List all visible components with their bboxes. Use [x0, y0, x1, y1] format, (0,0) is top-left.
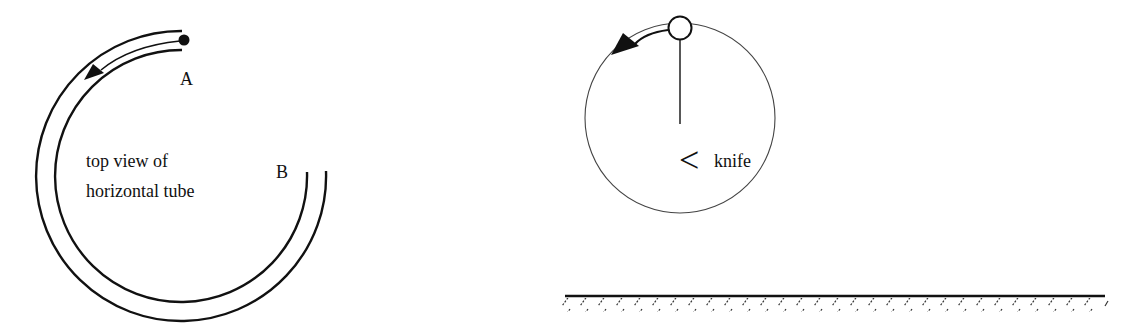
right-figure: < knife	[558, 17, 1108, 313]
point-b-label: B	[276, 162, 288, 182]
ground-hatch-end	[1105, 301, 1108, 306]
diagram-canvas: A B top view of horizontal tube < knife	[0, 0, 1134, 332]
knife-symbol: <	[679, 140, 699, 180]
ground	[558, 296, 1108, 312]
knife-label: knife	[714, 151, 751, 171]
pendulum-bob-icon	[669, 17, 692, 40]
arrow-head-icon	[611, 33, 639, 55]
left-figure: A B top view of horizontal tube	[36, 31, 326, 321]
caption-line-2: horizontal tube	[86, 181, 194, 201]
caption-line-1: top view of	[86, 151, 168, 171]
ball-icon	[179, 35, 190, 46]
point-a-label: A	[180, 69, 193, 89]
ground-hatching	[558, 298, 1102, 312]
